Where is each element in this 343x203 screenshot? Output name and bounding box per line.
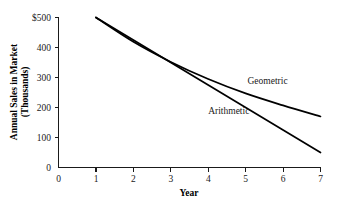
y-tick-label-500: $500 bbox=[32, 13, 51, 23]
y-tick-label-200: 200 bbox=[37, 103, 52, 113]
chart-container: $500 400 300 200 100 0 0 1 2 3 4 5 6 7 Y… bbox=[0, 0, 343, 203]
series-label-geometric: Geometric bbox=[248, 76, 288, 86]
y-tick-label-300: 300 bbox=[37, 73, 52, 83]
x-tick-label-3: 3 bbox=[169, 174, 174, 184]
y-axis-title-line2: (Thousands) bbox=[20, 67, 31, 118]
series-label-arithmetic: Arithmetic bbox=[208, 106, 249, 116]
y-tick-label-0: 0 bbox=[46, 163, 51, 173]
sales-decline-line-chart: $500 400 300 200 100 0 0 1 2 3 4 5 6 7 Y… bbox=[0, 0, 343, 203]
y-axis-title-line1: Annual Sales in Market bbox=[9, 43, 19, 140]
x-tick-label-2: 2 bbox=[131, 174, 136, 184]
x-tick-label-0: 0 bbox=[56, 174, 61, 184]
y-tick-label-400: 400 bbox=[37, 43, 52, 53]
x-tick-label-4: 4 bbox=[206, 174, 211, 184]
x-tick-label-1: 1 bbox=[94, 174, 99, 184]
x-tick-label-5: 5 bbox=[243, 174, 248, 184]
x-tick-label-7: 7 bbox=[318, 174, 323, 184]
chart-background bbox=[0, 0, 343, 203]
y-tick-label-100: 100 bbox=[37, 133, 52, 143]
x-tick-label-6: 6 bbox=[281, 174, 286, 184]
x-axis-title: Year bbox=[180, 188, 200, 198]
